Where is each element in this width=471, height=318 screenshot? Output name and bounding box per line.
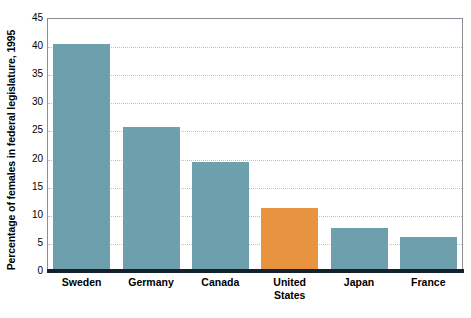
y-tick-15: 15 — [32, 182, 43, 192]
bar-sweden[interactable] — [53, 44, 110, 271]
y-tick-45: 45 — [32, 13, 43, 23]
y-axis-title-text: Percentage of females in federal legisla… — [5, 30, 17, 271]
y-axis-title: Percentage of females in federal legisla… — [0, 0, 22, 300]
x-tick-sweden: Sweden — [47, 276, 116, 289]
bars-layer — [47, 18, 463, 271]
x-tick-japan: Japan — [324, 276, 393, 289]
y-tick-40: 40 — [32, 41, 43, 51]
y-axis-tick-labels: 45 40 35 30 25 20 15 10 5 0 — [22, 0, 46, 318]
y-tick-30: 30 — [32, 97, 43, 107]
y-tick-35: 35 — [32, 69, 43, 79]
y-tick-10: 10 — [32, 210, 43, 220]
y-tick-0: 0 — [37, 266, 43, 276]
x-tick-japan-line1: Japan — [324, 276, 393, 289]
bar-united-states[interactable] — [261, 208, 318, 271]
bar-canada[interactable] — [192, 162, 249, 271]
x-tick-sweden-line1: Sweden — [47, 276, 116, 289]
x-axis-tick-labels: Sweden Germany Canada United States Japa… — [47, 276, 463, 316]
x-tick-united-states-line1: United — [255, 276, 324, 289]
x-tick-france-line1: France — [394, 276, 463, 289]
x-tick-united-states: United States — [255, 276, 324, 302]
x-axis-line — [47, 269, 464, 273]
bar-japan[interactable] — [331, 228, 388, 271]
bar-chart: Percentage of females in federal legisla… — [0, 0, 471, 318]
y-tick-20: 20 — [32, 154, 43, 164]
y-tick-5: 5 — [37, 238, 43, 248]
y-tick-25: 25 — [32, 125, 43, 135]
bar-germany[interactable] — [123, 127, 180, 271]
bar-france[interactable] — [400, 237, 457, 271]
x-tick-germany-line1: Germany — [116, 276, 185, 289]
x-tick-canada-line1: Canada — [186, 276, 255, 289]
x-tick-germany: Germany — [116, 276, 185, 289]
x-tick-france: France — [394, 276, 463, 289]
x-tick-united-states-line2: States — [255, 289, 324, 302]
x-tick-canada: Canada — [186, 276, 255, 289]
